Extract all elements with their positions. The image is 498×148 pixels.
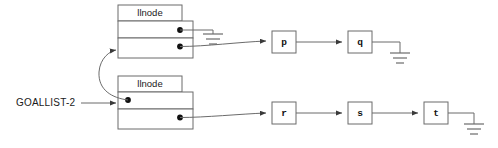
node-lower: llnode bbox=[118, 76, 193, 129]
atom-p: p bbox=[272, 31, 296, 53]
atom-p-label: p bbox=[281, 37, 287, 48]
atom-t-label: t bbox=[433, 108, 439, 119]
ground-q bbox=[372, 42, 410, 63]
atom-t: t bbox=[424, 102, 448, 124]
ground-t bbox=[448, 113, 484, 134]
node-lower-title: llnode bbox=[137, 78, 162, 89]
root-pointer-label: GOALLIST-2 bbox=[16, 97, 75, 108]
atom-q-label: q bbox=[357, 37, 363, 48]
atom-s-label: s bbox=[357, 108, 363, 119]
atom-q: q bbox=[348, 31, 372, 53]
root-pointer-goallist-2: GOALLIST-2 bbox=[16, 97, 116, 108]
atom-r-label: r bbox=[281, 108, 287, 119]
atom-s: s bbox=[348, 102, 372, 124]
linked-list-diagram: llnode p q bbox=[0, 0, 498, 148]
diagram-canvas: llnode p q bbox=[0, 0, 498, 148]
atom-r: r bbox=[272, 102, 296, 124]
node-upper-title: llnode bbox=[137, 7, 162, 18]
node-upper: llnode bbox=[118, 5, 193, 58]
